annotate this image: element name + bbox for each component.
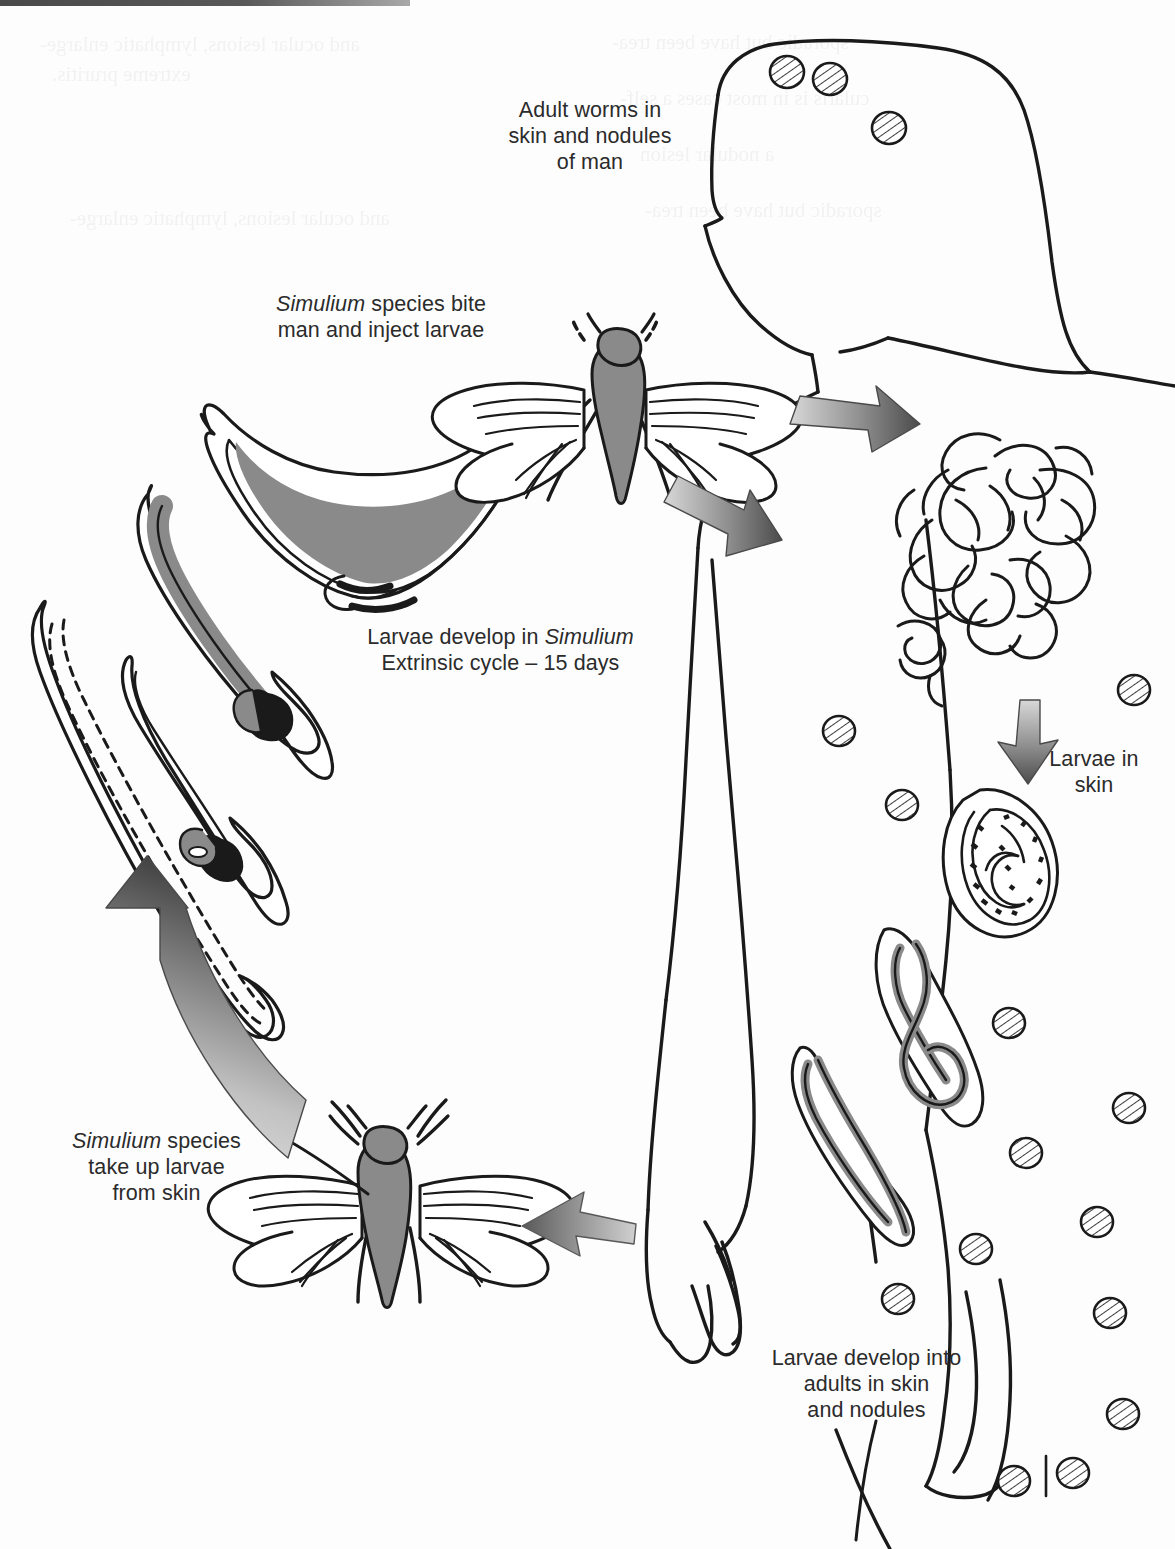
- label-takeup-line2: take up larvae: [88, 1155, 224, 1179]
- coiled-microfilaria-in-skin: [943, 790, 1057, 937]
- free-adult-worm: [898, 621, 945, 706]
- label-larvae-in-skin: Larvae in skin: [1026, 746, 1162, 798]
- label-larvae-adults-line1: Larvae develop into: [772, 1346, 962, 1370]
- adult-worm-hooked: [792, 1047, 913, 1245]
- skin-nodule: [1057, 1458, 1089, 1488]
- label-larvae-develop-genus: Simulium: [545, 625, 634, 649]
- life-cycle-illustration: [0, 0, 1175, 1549]
- label-larvae-in-skin-line2: skin: [1075, 773, 1114, 797]
- skin-nodule: [886, 790, 918, 820]
- label-adult-worms-line2: skin and nodules: [509, 124, 672, 148]
- label-simulium-bite: Simulium species bite man and inject lar…: [245, 291, 517, 343]
- skin-nodule: [960, 1234, 992, 1264]
- skin-nodule: [1010, 1138, 1042, 1168]
- label-adult-worms: Adult worms in skin and nodules of man: [497, 97, 683, 175]
- label-extrinsic-cycle: Extrinsic cycle – 15 days: [382, 651, 620, 675]
- leader-adults-label: [856, 1421, 876, 1540]
- label-larvae-adults-line3: and nodules: [807, 1398, 925, 1422]
- label-larvae-adults-line2: adults in skin: [804, 1372, 930, 1396]
- label-larvae-develop-in-simulium: Larvae develop in Simulium Extrinsic cyc…: [358, 624, 643, 676]
- skin-nodule: [770, 56, 804, 88]
- skin-nodule: [993, 1008, 1025, 1038]
- skin-nodule: [1107, 1399, 1139, 1429]
- skin-nodule: [882, 1284, 914, 1314]
- skin-nodule: [823, 716, 855, 746]
- label-adult-worms-line3: of man: [557, 150, 623, 174]
- diagram-page: and ocular lesions, lymphatic enlarge- e…: [0, 0, 1175, 1549]
- label-larvae-develop-pre: Larvae develop in: [367, 625, 545, 649]
- label-takeup-line3: from skin: [112, 1181, 200, 1205]
- skin-nodule: [1094, 1298, 1126, 1328]
- label-adult-worms-line1: Adult worms in: [519, 98, 661, 122]
- label-simulium-bite-line1-rest: species bite: [365, 292, 486, 316]
- skin-nodule: [998, 1466, 1030, 1496]
- label-takeup-genus: Simulium: [72, 1129, 161, 1153]
- label-simulium-bite-genus: Simulium: [276, 292, 365, 316]
- skin-nodule: [1118, 675, 1150, 705]
- skin-nodule: [872, 112, 906, 144]
- label-takeup-line1-rest: species: [161, 1129, 241, 1153]
- skin-nodule: [1081, 1207, 1113, 1237]
- skin-nodule: [1113, 1093, 1145, 1123]
- label-simulium-bite-line2: man and inject larvae: [278, 318, 484, 342]
- label-larvae-in-skin-line1: Larvae in: [1049, 747, 1138, 771]
- label-larvae-develop-into-adults: Larvae develop into adults in skin and n…: [756, 1345, 977, 1423]
- label-simulium-take-up-larvae: Simulium species take up larvae from ski…: [53, 1128, 260, 1206]
- skin-nodule: [813, 63, 847, 95]
